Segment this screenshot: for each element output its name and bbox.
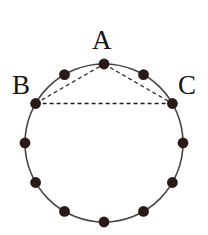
edge-ac xyxy=(104,64,172,104)
p-b xyxy=(30,98,41,109)
vertex-label-c: C xyxy=(178,72,196,99)
vertex-label-b: B xyxy=(12,72,30,99)
point-markers xyxy=(20,59,189,228)
p-3 xyxy=(167,177,178,188)
edge-ab xyxy=(36,64,104,104)
p-4 xyxy=(138,206,149,217)
circle-outline xyxy=(25,64,183,222)
p-c xyxy=(167,98,178,109)
p-8 xyxy=(20,138,31,149)
dashed-triangle xyxy=(36,64,173,104)
p-9 xyxy=(59,69,70,80)
p-1 xyxy=(138,69,149,80)
vertex-label-a: A xyxy=(92,27,112,54)
p-2 xyxy=(178,138,189,149)
p-6 xyxy=(59,206,70,217)
p-5 xyxy=(99,217,110,228)
p-a xyxy=(99,59,110,70)
geometry-figure: A B C xyxy=(0,0,208,235)
p-7 xyxy=(30,177,41,188)
